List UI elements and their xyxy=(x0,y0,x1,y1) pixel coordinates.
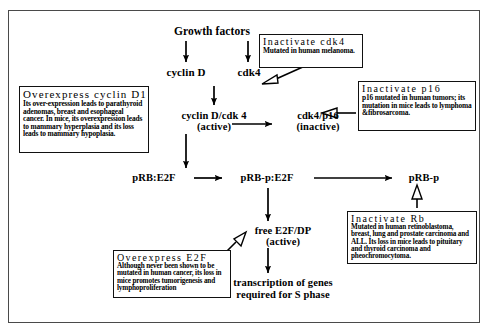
node-cdk4-p16-line2: (inactive) xyxy=(276,121,360,132)
annotation-box-p16: Inactivate p16 p16 mutated in human tumo… xyxy=(358,81,476,131)
annotation-box-rb: Inactivate Rb Mutated in human retinobla… xyxy=(347,211,477,264)
diagram-canvas: Growth factors cyclin D cdk4 cyclin D/cd… xyxy=(0,0,488,335)
node-transcription-line1: transcription of genes xyxy=(233,277,333,288)
node-growth-factors: Growth factors xyxy=(152,25,272,37)
annotation-box-cdk4: Inactivate cdk4 Mutated in human melanom… xyxy=(259,34,363,68)
annotation-box-e2f: Overexpress E2F Although never been show… xyxy=(113,250,231,298)
node-cyclin-d-cdk4-line2: (active) xyxy=(162,121,266,132)
node-transcription-line2: required for S phase xyxy=(218,289,348,301)
node-free-e2f-line1: free E2F/DP xyxy=(255,225,312,236)
annotation-body-rb: Mutated in human retinoblastoma, breast,… xyxy=(351,224,474,261)
node-cdk4-p16-inactive: cdk4/p16 (inactive) xyxy=(276,110,360,132)
node-prb-p-e2f: pRB-p:E2F xyxy=(226,172,308,183)
node-cdk4: cdk4 xyxy=(224,67,274,79)
node-cyclin-d: cyclin D xyxy=(152,67,220,79)
node-cdk4-p16-line1: cdk4/p16 xyxy=(297,110,339,121)
node-free-e2f-line2: (active) xyxy=(238,236,328,247)
annotation-body-cyclin-d1: Its over-expression leads to parathyroid… xyxy=(23,100,146,138)
node-free-e2f-dp-active: free E2F/DP (active) xyxy=(238,225,328,247)
annotation-body-cdk4: Mutated in human melanoma. xyxy=(263,47,360,55)
node-prb-p: pRB-p xyxy=(398,172,450,183)
node-transcription-s-phase: transcription of genes required for S ph… xyxy=(218,277,348,301)
annotation-body-e2f: Although never been shown to be mutated … xyxy=(117,263,228,292)
annotation-box-cyclin-d1: Overexpress cyclin D1 Its over-expressio… xyxy=(19,86,149,153)
node-cyclin-d-cdk4-line1: cyclin D/cdk 4 xyxy=(182,110,247,121)
annotation-body-p16: p16 mutated in human tumors; its mutatio… xyxy=(362,94,473,117)
node-cyclin-d-cdk4-active: cyclin D/cdk 4 (active) xyxy=(162,110,266,132)
node-prb-e2f: pRB:E2F xyxy=(118,172,190,183)
